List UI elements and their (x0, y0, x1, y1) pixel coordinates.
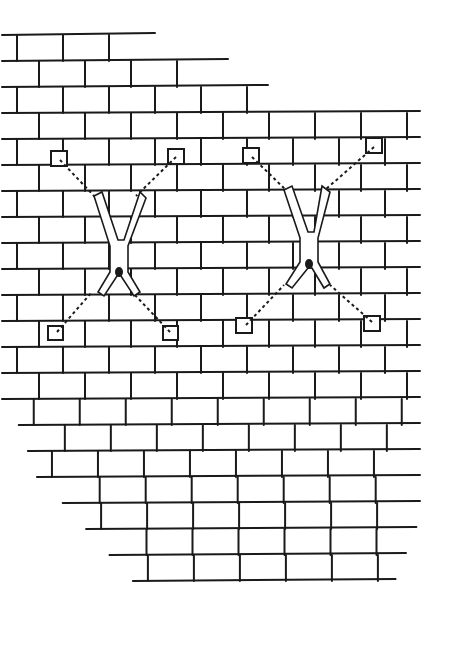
brick-wall (2, 33, 420, 581)
illustration-canvas (0, 0, 454, 646)
anchor-plate (51, 151, 67, 166)
anchor-plate (243, 148, 259, 163)
left-chained-figure (48, 149, 184, 340)
brick-wall-drawing (0, 0, 454, 646)
anchor-plate (48, 326, 63, 340)
anchor-plate (236, 318, 252, 333)
